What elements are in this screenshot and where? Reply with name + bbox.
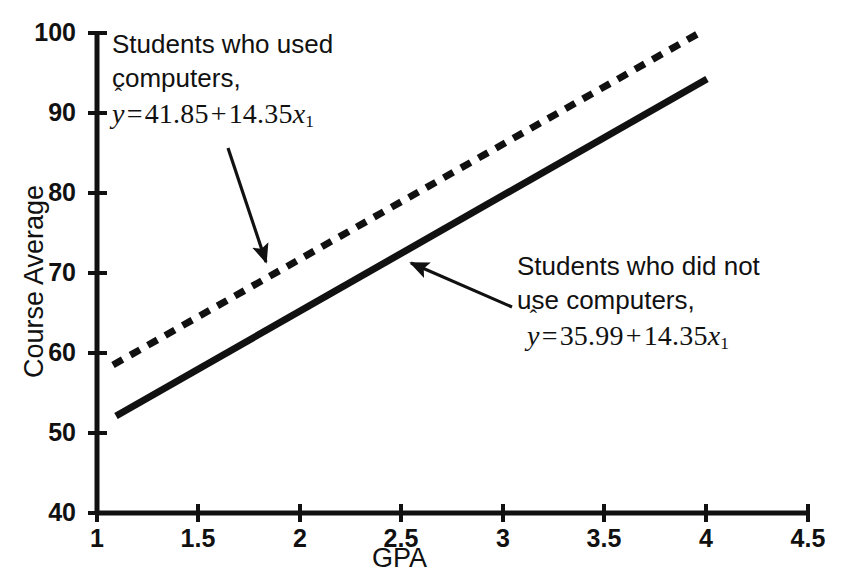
slope-value: 14.35 (229, 98, 293, 129)
annotation-used-equation: ŷ=41.85+14.35x1 (112, 96, 333, 134)
x-tick-label-2: 2 (270, 526, 330, 551)
annotation-used-computers: Students who used computers, ŷ=41.85+14… (112, 28, 333, 133)
y-tick-label-50: 50 (18, 420, 76, 445)
y-hat-symbol: ŷ (112, 96, 125, 132)
annotation-used-line2: computers, (112, 62, 333, 96)
arrow-to-used-computers-line (228, 148, 266, 262)
slope-value: 14.35 (644, 320, 708, 351)
annotation-notused-line1: Students who did not (517, 250, 760, 284)
x-tick-label-3: 3 (473, 526, 533, 551)
variable-x: x (708, 320, 721, 351)
x-tick-label-4: 4 (676, 526, 736, 551)
annotation-used-line1: Students who used (112, 28, 333, 62)
annotation-notused-equation: ŷ=35.99+14.35x1 (517, 318, 760, 356)
equals-sign: = (125, 98, 145, 129)
chart-figure: 100 90 80 70 60 50 40 1 1.5 2 2.5 3 3.5 … (0, 0, 842, 585)
plus-sign: + (624, 320, 644, 351)
arrow-to-not-used-computers-line (411, 263, 512, 307)
variable-subscript: 1 (720, 334, 729, 353)
variable-x: x (293, 98, 306, 129)
plus-sign: + (209, 98, 229, 129)
y-hat-symbol: ŷ (527, 318, 540, 354)
x-tick-label-4-5: 4.5 (778, 526, 838, 551)
y-tick-label-90: 90 (18, 100, 76, 125)
y-axis-title: Course Average (21, 152, 48, 412)
annotation-not-used-computers: Students who did not use computers, ŷ=3… (517, 250, 760, 355)
y-tick-label-40: 40 (18, 500, 76, 525)
x-tick-label-3-5: 3.5 (574, 526, 634, 551)
x-axis-title: GPA (372, 545, 427, 572)
equals-sign: = (540, 320, 560, 351)
x-tick-label-1: 1 (67, 526, 127, 551)
variable-subscript: 1 (305, 112, 314, 131)
intercept-value: 41.85 (145, 98, 209, 129)
intercept-value: 35.99 (560, 320, 624, 351)
y-tick-label-100: 100 (18, 20, 76, 45)
annotation-notused-line2: use computers, (517, 284, 760, 318)
x-tick-label-1-5: 1.5 (168, 526, 228, 551)
